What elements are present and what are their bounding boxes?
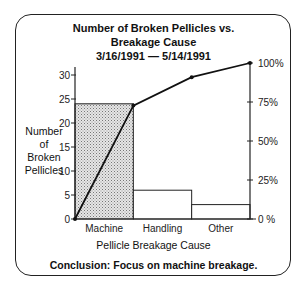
bar-handling: [133, 190, 191, 219]
cumulative-point: [248, 61, 252, 65]
y-tick-label: 25: [59, 94, 71, 105]
y-tick-label: 20: [59, 118, 71, 129]
x-axis-label: Pellicle Breakage Cause: [0, 239, 307, 251]
y-tick-label: 0: [64, 214, 70, 225]
y2-tick-label: 50%: [258, 136, 278, 147]
y2-tick-label: 25%: [258, 175, 278, 186]
x-tick-label: Handling: [143, 223, 182, 234]
conclusion-text: Conclusion: Focus on machine breakage.: [0, 259, 307, 271]
cumulative-point: [73, 217, 77, 221]
y2-tick-label: 0 %: [258, 214, 275, 225]
x-tick-label: Other: [208, 223, 234, 234]
y-tick-label: 5: [64, 190, 70, 201]
y-tick-label: 10: [59, 166, 71, 177]
cumulative-point: [190, 75, 194, 79]
y2-tick-label: 100%: [258, 58, 284, 69]
x-tick-label: Machine: [85, 223, 123, 234]
cumulative-point: [131, 104, 135, 108]
bar-other: [192, 205, 250, 219]
y-tick-label: 15: [59, 142, 71, 153]
y2-tick-label: 75%: [258, 97, 278, 108]
y-tick-label: 30: [59, 70, 71, 81]
